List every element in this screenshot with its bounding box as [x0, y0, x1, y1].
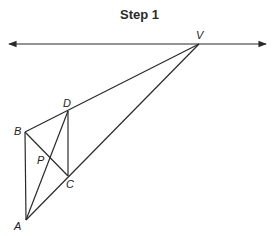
label-C: C — [66, 178, 74, 190]
perspective-diagram: V D B P C A — [0, 0, 279, 236]
label-D: D — [63, 97, 71, 109]
segment-BA — [25, 132, 26, 220]
segment-BV — [25, 44, 199, 132]
segment-BC — [25, 132, 68, 176]
label-B: B — [14, 125, 21, 137]
segment-AV — [26, 44, 199, 220]
label-P: P — [37, 154, 45, 166]
label-A: A — [13, 220, 21, 232]
segment-AD — [26, 111, 68, 220]
label-V: V — [196, 29, 205, 41]
